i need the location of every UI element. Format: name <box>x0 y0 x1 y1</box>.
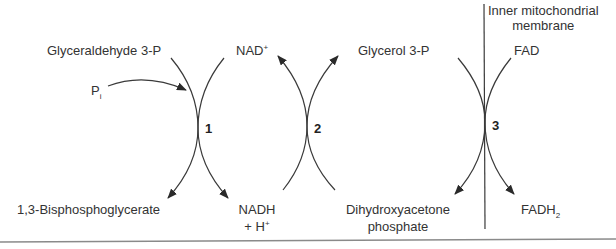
pi-subscript: i <box>100 92 102 101</box>
glycerol-3p-label: Glycerol 3-P <box>358 43 430 58</box>
reaction-number-2: 2 <box>314 121 321 136</box>
h-plus-superscript: + <box>265 219 270 228</box>
nad-text: NAD <box>236 43 263 58</box>
pi-label: Pi <box>91 83 101 98</box>
h-plus-text: + H <box>244 219 265 234</box>
arc-pi <box>108 80 186 90</box>
h-plus-line: + H+ <box>232 219 282 234</box>
bottom-rule <box>0 239 616 242</box>
glyceraldehyde-3p-label: Glyceraldehyde 3-P <box>47 43 161 58</box>
arc-2-nad <box>278 56 307 190</box>
dhap-line1: Dihydroxyacetone <box>343 202 453 217</box>
bisphosphoglycerate-label: 1,3-Bisphosphoglycerate <box>17 202 160 217</box>
arc-1-substrate <box>168 58 198 198</box>
fadh2-label: FADH2 <box>521 202 560 217</box>
arc-2-dhap <box>307 56 338 190</box>
reaction-number-1: 1 <box>205 121 212 136</box>
membrane-label: Inner mitochondrial membrane <box>488 3 599 33</box>
membrane-label-line1: Inner mitochondrial <box>488 3 599 18</box>
reaction-number-3: 3 <box>492 118 499 133</box>
pi-text: P <box>91 83 100 98</box>
dhap-line2: phosphate <box>343 219 453 234</box>
fadh-text: FADH <box>521 202 556 217</box>
fad-label: FAD <box>514 43 539 58</box>
dhap-label: Dihydroxyacetone phosphate <box>343 202 453 234</box>
fadh-subscript: 2 <box>556 211 560 220</box>
nadh-text: NADH <box>232 202 282 217</box>
nadh-label: NADH + H+ <box>232 202 282 234</box>
nad-superscript: + <box>263 43 268 52</box>
arc-1-coenzyme <box>198 58 228 198</box>
arc-3-substrate <box>455 58 485 194</box>
membrane-line <box>484 4 485 229</box>
nad-plus-label: NAD+ <box>236 43 268 58</box>
membrane-label-line2: membrane <box>488 18 599 33</box>
arc-3-fad <box>485 58 514 194</box>
